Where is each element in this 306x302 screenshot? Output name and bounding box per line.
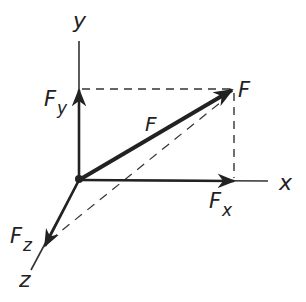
dashed-line-fz-to-f bbox=[50, 98, 226, 240]
svg-text:y: y bbox=[56, 98, 68, 118]
f-vector-label: F bbox=[145, 112, 157, 136]
origin-point bbox=[75, 175, 83, 183]
svg-text:F: F bbox=[44, 87, 57, 111]
force-diagram: y x z F F F y F x F z bbox=[0, 0, 306, 302]
svg-text:z: z bbox=[22, 235, 33, 255]
fz-vector bbox=[45, 180, 79, 246]
svg-text:x: x bbox=[221, 200, 233, 220]
fx-label: F x bbox=[209, 189, 233, 220]
x-axis-label: x bbox=[278, 170, 293, 195]
svg-text:F: F bbox=[10, 224, 23, 248]
fy-label: F y bbox=[44, 87, 68, 118]
fx-vector bbox=[79, 180, 234, 181]
svg-text:F: F bbox=[209, 189, 222, 213]
z-axis-label: z bbox=[18, 267, 31, 292]
f-tip-label: F bbox=[238, 78, 251, 102]
y-axis-label: y bbox=[72, 8, 87, 33]
fz-label: F z bbox=[10, 224, 33, 255]
